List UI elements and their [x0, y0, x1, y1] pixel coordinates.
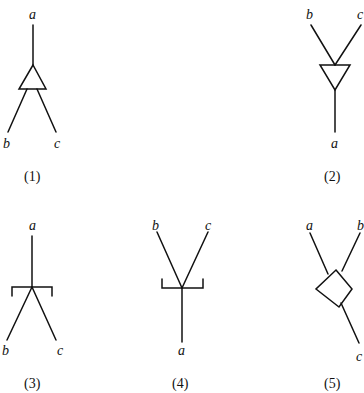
label-c: c [54, 136, 61, 151]
label-a: a [29, 218, 36, 233]
caption-5: (5) [324, 376, 341, 392]
diagram-5: a b c (5) [306, 218, 364, 392]
edge-b [157, 232, 182, 288]
label-c: c [57, 343, 64, 358]
edge-b [311, 25, 335, 65]
diagram-4: b c a (4) [152, 218, 212, 392]
edge-c [182, 232, 208, 288]
edge-c [37, 89, 56, 132]
caption-1: (1) [24, 169, 41, 185]
caption-4: (4) [172, 376, 189, 392]
label-a: a [178, 343, 185, 358]
diagram-3: a b c (3) [2, 218, 64, 392]
label-b: b [306, 7, 313, 22]
diagram-canvas: a b c (1) b c a (2) a b c (3) b c [0, 0, 364, 393]
label-a: a [306, 218, 313, 233]
edge-b [342, 233, 360, 271]
caption-2: (2) [324, 169, 341, 185]
edge-c [335, 25, 361, 65]
triangle-down-icon [320, 65, 350, 90]
label-b: b [2, 343, 9, 358]
edge-b [7, 287, 32, 340]
caption-3: (3) [24, 376, 41, 392]
label-c: c [356, 349, 363, 364]
label-b: b [3, 136, 10, 151]
edge-a [310, 233, 328, 274]
diagram-1: a b c (1) [3, 7, 61, 185]
label-a: a [29, 7, 36, 22]
triangle-up-icon [19, 65, 46, 89]
label-c: c [357, 7, 364, 22]
edge-c [341, 303, 359, 343]
label-c: c [205, 218, 212, 233]
diamond-icon [316, 270, 352, 307]
label-b: b [357, 218, 364, 233]
diagram-2: b c a (2) [306, 7, 364, 185]
label-a: a [331, 136, 338, 151]
edge-b [8, 89, 27, 132]
label-b: b [152, 218, 159, 233]
